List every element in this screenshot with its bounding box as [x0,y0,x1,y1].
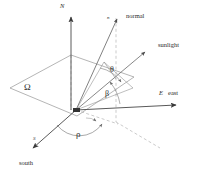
axis-east [76,105,176,110]
angle-arc-rho-inner [86,118,96,121]
axis-south [33,110,76,148]
angle-label-rho: ρ [76,130,81,139]
axis-symbol-east: E [159,90,163,97]
construction-dashed-lines [71,18,160,148]
vector-label-normal: normal [126,13,144,20]
geometry-diagram: N n normal sunlight E east S south Ω θ β… [0,0,200,177]
axis-label-east: east [168,90,178,97]
angle-label-beta: β [105,90,109,98]
axis-symbol-south: S [33,136,36,141]
region-label-omega: Ω [24,83,31,92]
origin-point [73,108,80,112]
angle-arc-beta [110,82,120,104]
vector-label-sunlight: sunlight [158,42,179,49]
axis-label-north: N [60,3,64,10]
vector-symbol-normal: n [107,15,110,20]
axis-label-south: south [19,160,33,167]
angle-label-theta: θ [110,66,114,74]
